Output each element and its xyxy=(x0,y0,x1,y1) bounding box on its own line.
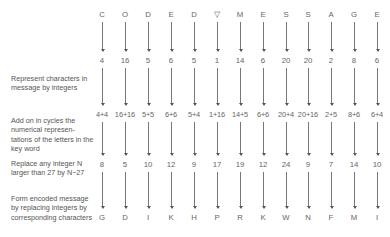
step-label-replace: Replace any integer N larger than 27 by … xyxy=(11,159,96,178)
arrowhead-icon xyxy=(170,103,174,106)
arrowhead-icon xyxy=(101,103,105,106)
arrowhead-icon xyxy=(239,49,243,52)
arrowhead-icon xyxy=(101,49,105,52)
message-char: E xyxy=(168,10,173,19)
encoded-char: D xyxy=(122,213,128,222)
down-arrow-icon xyxy=(240,122,241,154)
arrowhead-icon xyxy=(101,206,105,209)
encoded-char: I xyxy=(147,213,149,222)
arrowhead-icon xyxy=(193,103,197,106)
key-sum: 16+16 xyxy=(115,110,135,119)
step-label-form-encoded: Form encoded message by replacing intege… xyxy=(11,194,96,222)
down-arrow-icon xyxy=(148,22,149,50)
down-arrow-icon xyxy=(194,172,195,207)
down-arrow-icon xyxy=(217,68,218,104)
down-arrow-icon xyxy=(263,122,264,154)
down-arrow-icon xyxy=(240,68,241,104)
down-arrow-icon xyxy=(194,122,195,154)
key-sum: 4+4 xyxy=(96,110,108,119)
down-arrow-icon xyxy=(377,22,378,50)
char-integer: 6 xyxy=(375,56,379,65)
arrowhead-icon xyxy=(170,153,174,156)
reduced-integer: 5 xyxy=(123,160,127,169)
arrowhead-icon xyxy=(307,153,311,156)
message-char: O xyxy=(122,10,128,19)
arrowhead-icon xyxy=(285,206,289,209)
arrowhead-icon xyxy=(285,153,289,156)
message-char: S xyxy=(283,10,288,19)
encoded-char: H xyxy=(191,213,197,222)
down-arrow-icon xyxy=(263,22,264,50)
char-integer: 2 xyxy=(329,56,333,65)
down-arrow-icon xyxy=(354,172,355,207)
arrowhead-icon xyxy=(193,49,197,52)
down-arrow-icon xyxy=(217,122,218,154)
message-char: C xyxy=(99,10,105,19)
char-integer: 6 xyxy=(261,56,265,65)
down-arrow-icon xyxy=(171,172,172,207)
down-arrow-icon xyxy=(148,68,149,104)
char-integer: 4 xyxy=(100,56,104,65)
down-arrow-icon xyxy=(171,22,172,50)
reduced-integer: 24 xyxy=(282,160,291,169)
reduced-integer: 9 xyxy=(192,160,196,169)
arrowhead-icon xyxy=(376,153,380,156)
reduced-integer: 17 xyxy=(213,160,222,169)
arrowhead-icon xyxy=(124,153,128,156)
key-sum: 5+5 xyxy=(142,110,154,119)
arrowhead-icon xyxy=(330,206,334,209)
arrowhead-icon xyxy=(353,153,357,156)
reduced-integer: 12 xyxy=(167,160,176,169)
key-sum: 8+6 xyxy=(348,110,360,119)
down-arrow-icon xyxy=(308,22,309,50)
down-arrow-icon xyxy=(263,172,264,207)
arrowhead-icon xyxy=(330,49,334,52)
down-arrow-icon xyxy=(263,68,264,104)
down-arrow-icon xyxy=(102,172,103,207)
message-char: G xyxy=(351,10,357,19)
arrowhead-icon xyxy=(307,206,311,209)
message-char: D xyxy=(145,10,151,19)
down-arrow-icon xyxy=(217,172,218,207)
down-arrow-icon xyxy=(331,22,332,50)
reduced-integer: 14 xyxy=(350,160,359,169)
down-arrow-icon xyxy=(102,68,103,104)
encoded-char: K xyxy=(168,213,173,222)
reduced-integer: 8 xyxy=(100,160,104,169)
down-arrow-icon xyxy=(171,122,172,154)
message-char: E xyxy=(260,10,265,19)
arrowhead-icon xyxy=(353,103,357,106)
arrowhead-icon xyxy=(124,206,128,209)
arrowhead-icon xyxy=(124,103,128,106)
key-sum: 20+16 xyxy=(298,110,318,119)
down-arrow-icon xyxy=(125,22,126,50)
down-arrow-icon xyxy=(125,172,126,207)
message-char: ▽ xyxy=(214,10,220,19)
reduced-integer: 10 xyxy=(144,160,153,169)
down-arrow-icon xyxy=(377,68,378,104)
arrowhead-icon xyxy=(307,49,311,52)
key-sum: 6+4 xyxy=(371,110,383,119)
arrowhead-icon xyxy=(216,206,220,209)
arrowhead-icon xyxy=(262,49,266,52)
arrowhead-icon xyxy=(216,103,220,106)
arrowhead-icon xyxy=(216,49,220,52)
down-arrow-icon xyxy=(286,122,287,154)
char-integer: 16 xyxy=(121,56,130,65)
char-integer: 8 xyxy=(352,56,356,65)
down-arrow-icon xyxy=(125,68,126,104)
arrowhead-icon xyxy=(330,153,334,156)
arrowhead-icon xyxy=(353,49,357,52)
message-char: M xyxy=(237,10,244,19)
arrowhead-icon xyxy=(101,153,105,156)
char-integer: 6 xyxy=(169,56,173,65)
arrowhead-icon xyxy=(147,103,151,106)
down-arrow-icon xyxy=(102,22,103,50)
arrowhead-icon xyxy=(353,206,357,209)
arrowhead-icon xyxy=(239,206,243,209)
arrowhead-icon xyxy=(124,49,128,52)
key-sum: 6+6 xyxy=(165,110,177,119)
encoded-char: N xyxy=(305,213,311,222)
down-arrow-icon xyxy=(354,122,355,154)
char-integer: 1 xyxy=(215,56,219,65)
